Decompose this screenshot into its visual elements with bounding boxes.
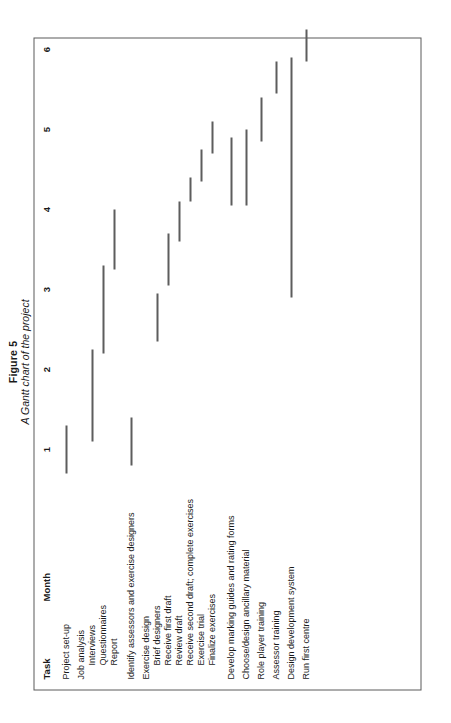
- gantt-bar[interactable]: [113, 209, 115, 269]
- gantt-bar[interactable]: [290, 57, 292, 297]
- month-tick-5: 5: [40, 126, 51, 131]
- gantt-row[interactable]: Review draft: [173, 38, 184, 689]
- figure-caption: A Gantt chart of the project: [18, 0, 31, 723]
- task-label: Job analysis: [75, 629, 86, 679]
- gantt-bar[interactable]: [305, 29, 307, 61]
- gantt-row[interactable]: Develop marking guides and rating forms: [225, 38, 236, 689]
- gantt-bar[interactable]: [91, 349, 93, 441]
- task-label: Brief designers: [151, 605, 162, 665]
- gantt-bar[interactable]: [167, 233, 169, 285]
- task-label: Receive second draft; complete exercises: [184, 498, 195, 665]
- gantt-row[interactable]: Role player training: [255, 38, 266, 689]
- task-label: Choose/design ancillary material: [240, 549, 251, 679]
- figure-number: Figure 5: [6, 0, 18, 723]
- gantt-bar[interactable]: [275, 61, 277, 93]
- gantt-row[interactable]: Assessor training: [270, 38, 281, 689]
- gantt-row[interactable]: Run first centre: [300, 38, 311, 689]
- gantt-bar[interactable]: [130, 417, 132, 465]
- month-tick-4: 4: [40, 206, 51, 211]
- gantt-bar[interactable]: [156, 293, 158, 341]
- gantt-bar[interactable]: [260, 97, 262, 141]
- chart-frame: Task Month 123456 Project set-upJob anal…: [33, 37, 421, 690]
- figure-title-block: Figure 5 A Gantt chart of the project: [6, 0, 31, 723]
- gantt-bar[interactable]: [102, 265, 104, 353]
- gantt-bar[interactable]: [230, 137, 232, 205]
- gantt-row[interactable]: Choose/design ancillary material: [240, 38, 251, 689]
- task-label: Design development system: [285, 566, 296, 679]
- month-tick-6: 6: [40, 46, 51, 51]
- gantt-bar[interactable]: [189, 177, 191, 201]
- task-label: Run first centre: [300, 618, 311, 679]
- gantt-row[interactable]: Receive second draft; complete exercises: [184, 38, 195, 689]
- task-label: Develop marking guides and rating forms: [225, 515, 236, 679]
- column-header-month: Month: [40, 573, 51, 602]
- gantt-row[interactable]: Job analysis: [75, 38, 86, 689]
- task-label: Project set-up: [60, 623, 71, 679]
- gantt-bar[interactable]: [65, 425, 67, 473]
- task-label: Finalize exercises: [206, 593, 217, 665]
- task-label: Exercise trial: [195, 613, 206, 665]
- gantt-bar[interactable]: [245, 129, 247, 205]
- gantt-bar[interactable]: [178, 201, 180, 241]
- task-label: Role player training: [255, 601, 266, 679]
- task-label: Review draft: [173, 615, 184, 665]
- gantt-row[interactable]: Exercise trial: [195, 38, 206, 689]
- gantt-row[interactable]: Identify assessors and exercise designer…: [125, 38, 136, 689]
- column-header-task: Task: [40, 658, 51, 679]
- rotated-page-canvas: Figure 5 A Gantt chart of the project Ta…: [0, 0, 451, 723]
- gantt-row[interactable]: Report: [108, 38, 119, 689]
- task-label: Interviews: [86, 624, 97, 665]
- task-label: Report: [108, 638, 119, 665]
- gantt-bar[interactable]: [211, 121, 213, 153]
- gantt-row[interactable]: Finalize exercises: [206, 38, 217, 689]
- month-tick-3: 3: [40, 286, 51, 291]
- gantt-row[interactable]: Questionnaires: [97, 38, 108, 689]
- month-tick-2: 2: [40, 366, 51, 371]
- task-label: Questionnaires: [97, 604, 108, 665]
- gantt-bar[interactable]: [200, 149, 202, 181]
- task-label: Exercise design: [140, 615, 151, 679]
- gantt-row[interactable]: Exercise design: [140, 38, 151, 689]
- gantt-row[interactable]: Design development system: [285, 38, 296, 689]
- task-label: Identify assessors and exercise designer…: [125, 512, 136, 679]
- task-label: Receive first draft: [162, 595, 173, 665]
- gantt-row[interactable]: Receive first draft: [162, 38, 173, 689]
- gantt-row[interactable]: Brief designers: [151, 38, 162, 689]
- gantt-row[interactable]: Interviews: [86, 38, 97, 689]
- task-label: Assessor training: [270, 610, 281, 679]
- gantt-row[interactable]: Project set-up: [60, 38, 71, 689]
- month-tick-1: 1: [40, 446, 51, 451]
